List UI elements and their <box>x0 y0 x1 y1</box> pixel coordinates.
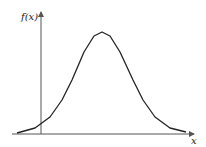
y-axis-label: f(x) <box>20 11 38 22</box>
x-axis-label: x <box>191 135 197 146</box>
chart-canvas: f(x) x <box>0 0 206 147</box>
density-curve <box>17 32 186 133</box>
